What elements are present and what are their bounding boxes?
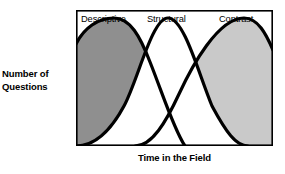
x-axis-label: Time in the Field <box>76 152 273 163</box>
curves-svg <box>76 10 273 146</box>
y-axis-label: Number of Questions <box>2 68 74 93</box>
figure-container: Number of Questions Descriptive Structur… <box>0 0 285 174</box>
plot-area: Descriptive Structural Contrast <box>76 10 273 146</box>
y-axis-label-line1: Number of <box>2 68 74 81</box>
series-label-structural: Structural <box>147 14 186 25</box>
series-label-descriptive: Descriptive <box>81 14 126 25</box>
series-label-contrast: Contrast <box>219 14 253 25</box>
y-axis-label-line2: Questions <box>2 81 74 94</box>
